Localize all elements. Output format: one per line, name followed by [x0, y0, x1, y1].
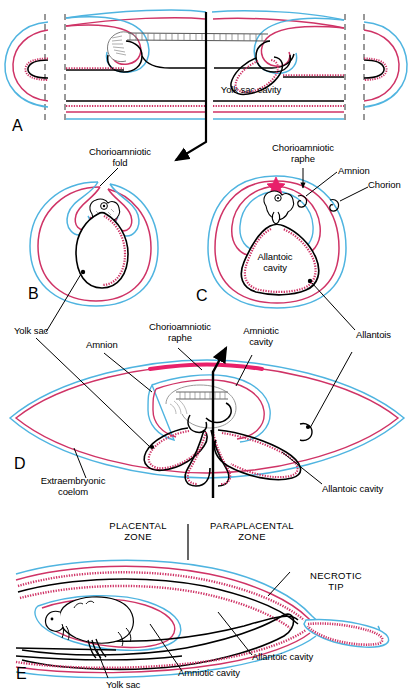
figure-root: A B C D E Yolk sac cavity Chorioamniotic… — [0, 0, 414, 699]
panel-d-central-crimson-left — [188, 432, 206, 484]
panel-a-right-yolk-outline — [364, 60, 384, 78]
panel-c-allantois-marker — [308, 279, 312, 283]
label-chorioamniotic-fold: Chorioamniotic fold — [72, 147, 168, 168]
label-chorion-c: Chorion — [368, 180, 401, 191]
leader-allantois-c — [312, 283, 355, 330]
panel-letter-d: D — [14, 456, 26, 472]
label-yolk-sac-b: Yolk sac — [14, 326, 48, 337]
label-chorioamniotic-raphe-d: Chorioamniotic raphe — [134, 322, 226, 343]
label-allantoic-cavity-d: Allantoic cavity — [322, 484, 383, 495]
panel-d-drawing — [10, 338, 404, 498]
panel-c-drawing — [208, 168, 368, 330]
panel-letter-a: A — [12, 118, 23, 134]
panel-b-yolk-sac-outline — [76, 213, 128, 289]
panel-letter-b: B — [28, 286, 39, 302]
panel-letter-e: E — [16, 666, 27, 682]
leader-chorion-c — [340, 187, 368, 201]
label-yolk-sac-e: Yolk sac — [106, 680, 140, 691]
leader-yolk-sac-d — [36, 338, 150, 447]
panel-b-yolk-sac-marker — [81, 270, 85, 274]
label-paraplacental-zone: PARAPLACENTAL ZONE — [194, 520, 310, 542]
label-yolk-sac-cavity: Yolk sac cavity — [203, 85, 299, 96]
panel-b-notochord — [103, 205, 105, 207]
panel-e-fetus-eye — [51, 618, 54, 621]
panel-c-gut-stalk — [272, 212, 279, 224]
panel-d-embryo-body — [166, 385, 236, 428]
panel-a-somites — [127, 33, 270, 41]
panel-d-allantois-neck — [300, 423, 312, 440]
panel-c-notochord — [277, 197, 279, 199]
arrow-a-to-b — [176, 118, 206, 160]
panel-letter-c: C — [196, 288, 208, 304]
label-allantois-c: Allantois — [356, 330, 391, 341]
panel-a-left-amnion-crimson — [13, 30, 48, 101]
panel-a-right-amnion-crimson — [364, 30, 399, 101]
label-amnion-c: Amnion — [338, 166, 370, 177]
label-chorioamniotic-raphe-c: Chorioamniotic raphe — [256, 143, 350, 164]
leader-allantoic-cavity-e — [218, 612, 252, 655]
label-placental-zone: PLACENTAL ZONE — [86, 520, 190, 542]
panel-a-embryo-head — [107, 32, 137, 62]
label-necrotic-tip: NECROTIC TIP — [296, 570, 376, 592]
label-extraembryonic-coelom: Extraembryonic coelom — [20, 476, 126, 497]
label-allantoic-cavity-e: Allantoic cavity — [252, 652, 313, 663]
leader-chorioamniotic-fold — [100, 168, 118, 186]
label-allantoic-cavity-c: Allantoic cavity — [240, 252, 310, 273]
label-amniotic-cavity-d: Amniotic cavity — [228, 326, 294, 347]
leader-amniotic-cavity-e — [150, 624, 182, 671]
fetal-membrane-diagram — [0, 0, 414, 699]
panel-b-drawing — [30, 168, 158, 332]
panel-e-fetus-body — [60, 597, 134, 643]
label-amniotic-cavity-e: Amniotic cavity — [178, 668, 240, 679]
panel-e-fetus-head — [45, 611, 63, 631]
label-amnion-d: Amnion — [86, 340, 118, 351]
panel-d-amnion-marker — [150, 445, 154, 449]
leader-necrotic-tip — [268, 572, 290, 596]
panel-a-fold-right-crimson — [261, 27, 344, 67]
